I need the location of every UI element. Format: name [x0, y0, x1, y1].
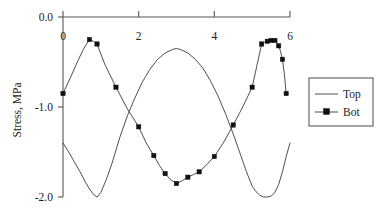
y-tick-label-0: 0.0 [39, 11, 54, 23]
legend: Top Bot [309, 78, 373, 126]
series-bot-marker [280, 57, 284, 61]
series-bot-marker [87, 37, 91, 41]
series-bot-line [63, 40, 286, 184]
series-bot-marker [231, 123, 235, 127]
series-bot [61, 37, 289, 185]
series-bot-marker [276, 44, 280, 48]
chart-figure: Stress, MPa 0.0 -1.0 -2.0 0 2 4 6 Top [0, 0, 385, 214]
series-bot-marker [163, 171, 167, 175]
series-bot-marker [61, 91, 65, 95]
series-bot-marker [284, 91, 288, 95]
legend-label-top: Top [343, 88, 361, 101]
series-bot-marker [259, 42, 263, 46]
series-bot-marker [114, 85, 118, 89]
series-bot-marker [186, 175, 190, 179]
series-bot-marker [197, 170, 201, 174]
series-bot-marker [212, 154, 216, 158]
x-tick-label-2: 4 [211, 30, 217, 42]
series-bot-marker [95, 42, 99, 46]
y-axis-title: Stress, MPa [11, 83, 24, 138]
legend-label-bot: Bot [343, 106, 360, 118]
x-tick-label-0: 0 [60, 30, 66, 42]
y-tick-label-1: -1.0 [35, 101, 53, 113]
series-bot-marker [250, 85, 254, 89]
legend-border [309, 78, 373, 126]
legend-marker-bot [324, 109, 330, 115]
stress-line-chart: Stress, MPa 0.0 -1.0 -2.0 0 2 4 6 Top [0, 0, 385, 214]
x-tick-label-3: 6 [287, 30, 293, 42]
series-bot-marker [136, 125, 140, 129]
series-bot-marker [174, 181, 178, 185]
series-bot-marker [273, 38, 277, 42]
series-bot-marker [152, 153, 156, 157]
x-tick-label-1: 2 [136, 30, 142, 42]
y-tick-label-2: -2.0 [35, 191, 53, 203]
